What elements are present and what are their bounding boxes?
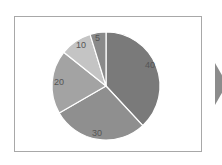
label-5: 5: [95, 33, 100, 43]
label-30: 30: [92, 128, 102, 138]
label-10: 10: [76, 40, 86, 50]
next-arrow-icon: [215, 63, 222, 105]
pie-chart: 40 30 20 10 5: [0, 0, 222, 165]
label-40: 40: [145, 60, 155, 70]
label-20: 20: [54, 77, 64, 87]
